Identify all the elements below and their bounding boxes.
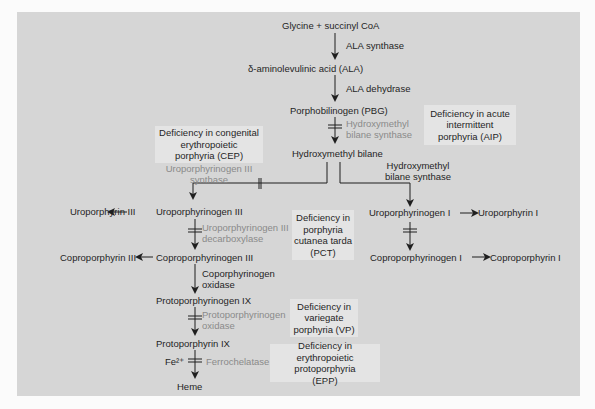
hmb-synthase-label-1: Hydroxymethyl [378,160,458,171]
hydroxymethyl-bilane-label: Hydroxymethyl bilane [292,148,383,159]
uro-decarboxylase-label-2: decarboxylase [202,233,263,244]
uro-decarboxylase-label-1: Uroporphyrinogen III [202,222,289,233]
glycine-succinyl-coa-label: Glycine + succinyl CoA [282,20,379,31]
copro-oxidase-label-2: oxidase [202,279,235,290]
cep-line-1: Deficiency in congenital [159,127,259,139]
hmb-synthase-blocked-label-1: Hydroxymethyl [346,118,409,129]
uro3-synthase-label-1: Uroporphyrinogen III [162,163,256,174]
cep-line-3: porphyria (CEP) [159,150,259,162]
epp-line-3: (EPP) [270,375,380,387]
coproporphyrin-iii-label: Coproporphyrin III [60,252,136,263]
ala-label: δ-aminolevulinic acid (ALA) [248,63,363,74]
deficiency-box-epp: Deficiency in erythropoietic protoporphy… [270,344,380,382]
pct-line-3: cutanea tarda [294,235,352,247]
hmb-synthase-blocked-label-2: bilane synthase [346,129,412,140]
pct-line-1: Deficiency in [294,212,352,224]
protogen-oxidase-label-1: Protoporphyrinogen [202,309,285,320]
deficiency-box-aip: Deficiency in acute intermittent porphyr… [424,105,516,145]
protoporphyrin-ix-label: Protoporphyrin IX [156,338,230,349]
deficiency-box-cep: Deficiency in congenital erythropoietic … [155,126,263,163]
pbg-label: Porphobilinogen (PBG) [290,105,388,116]
vp-line-1: Deficiency in [293,301,354,313]
uroporphyrinogen-i-label: Uroporphyrinogen I [369,207,450,218]
vp-line-3: porphyria (VP) [293,324,354,336]
heme-label: Heme [177,381,202,392]
coproporphyrinogen-iii-label: Coproporphyrinogen III [156,252,253,263]
ferrochelatase-label: Ferrochelatase [206,356,269,367]
epp-line-2: protoporphyria [270,363,380,375]
protogen-oxidase-label-2: oxidase [202,320,235,331]
uroporphyrin-i-label: Uroporphyrin I [478,207,538,218]
aip-line-3: porphyria (AIP) [430,131,510,143]
deficiency-box-vp: Deficiency in variegate porphyria (VP) [290,299,358,337]
ala-synthase-label: ALA synthase [346,40,404,51]
pct-line-2: porphyria [294,224,352,236]
aip-line-1: Deficiency in acute [430,108,510,120]
epp-line-1: Deficiency in erythropoietic [270,340,380,363]
copro-oxidase-label-1: Coporphyrinogen [202,268,275,279]
hmb-synthase-label-2: bilane synthase [378,171,458,182]
uro3-synthase-label-2: synthase [162,174,256,185]
pct-line-4: (PCT) [294,247,352,259]
cep-line-2: erythropoietic [159,139,259,151]
aip-line-2: intermittent [430,119,510,131]
vp-line-2: variegate [293,312,354,324]
fe2-label: Fe²⁺ [165,356,184,367]
ala-dehydrase-label: ALA dehydrase [346,83,410,94]
deficiency-box-pct: Deficiency in porphyria cutanea tarda (P… [292,210,354,260]
coproporphyrin-i-label: Coproporphyrin I [490,252,561,263]
coproporphyrinogen-i-label: Coproporphyrinogen I [370,252,462,263]
uroporphyrin-iii-label: Uroporphyrin III [70,206,135,217]
uroporphyrinogen-iii-label: Uroporphyrinogen III [156,206,243,217]
protoporphyrinogen-ix-label: Protoporphyrinogen IX [156,295,251,306]
